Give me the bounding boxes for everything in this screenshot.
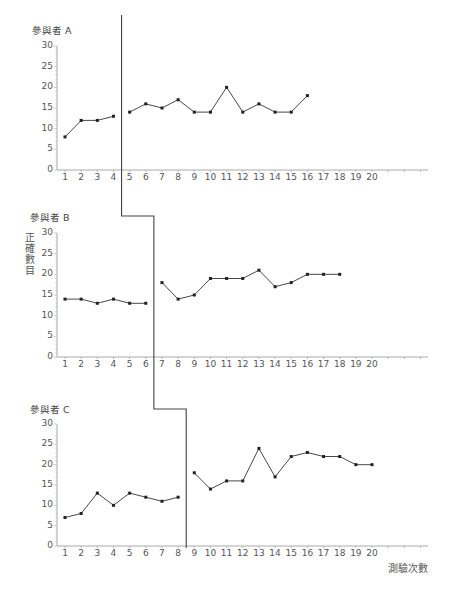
y-tick-label: 10 [33, 123, 53, 133]
y-tick-label: 25 [33, 438, 53, 448]
y-tick-label: 20 [33, 459, 53, 469]
y-tick-label: 20 [33, 268, 53, 278]
data-point [241, 111, 244, 114]
y-tick-label: 10 [33, 499, 53, 509]
data-point [112, 298, 115, 301]
data-point [160, 500, 163, 503]
panel-a-title: 參與者 A [32, 23, 72, 37]
y-tick-label: 30 [33, 40, 53, 50]
data-point [144, 302, 147, 305]
data-point [241, 479, 244, 482]
intervention-line [194, 448, 372, 489]
data-point [306, 451, 309, 454]
data-point [290, 455, 293, 458]
y-tick-label: 30 [33, 227, 53, 237]
data-point [306, 94, 309, 97]
data-point [160, 281, 163, 284]
data-point [322, 455, 325, 458]
y-tick-label: 30 [33, 418, 53, 428]
y-tick-label: 15 [33, 479, 53, 489]
y-tick-label: 20 [33, 81, 53, 91]
data-point [112, 504, 115, 507]
data-point [290, 111, 293, 114]
data-point [338, 273, 341, 276]
data-point [64, 516, 67, 519]
data-point [64, 135, 67, 138]
x-tick-label: 20 [362, 172, 382, 182]
data-point [160, 107, 163, 110]
data-point [371, 463, 374, 466]
data-point [225, 277, 228, 280]
panel-b-title: 參與者 B [30, 210, 70, 224]
x-tick-label: 20 [362, 359, 382, 369]
baseline-line [65, 116, 114, 137]
data-point [128, 111, 131, 114]
y-tick-label: 5 [33, 143, 53, 153]
x-tick-label: 20 [362, 548, 382, 558]
y-tick-label: 15 [33, 289, 53, 299]
data-point [177, 98, 180, 101]
data-point [64, 298, 67, 301]
data-point [338, 455, 341, 458]
y-tick-label: 5 [33, 330, 53, 340]
multiple-baseline-chart [0, 0, 451, 590]
data-point [306, 273, 309, 276]
data-point [225, 479, 228, 482]
data-point [193, 294, 196, 297]
x-axis-label: 測驗次數 [388, 560, 428, 575]
data-point [274, 111, 277, 114]
data-point [193, 471, 196, 474]
intervention-line [130, 87, 308, 112]
y-tick-label: 15 [33, 102, 53, 112]
data-point [112, 115, 115, 118]
data-point [177, 496, 180, 499]
phase-change-line [122, 15, 187, 548]
panel-c-title: 參與者 C [30, 402, 70, 416]
data-point [257, 102, 260, 105]
y-tick-label: 10 [33, 310, 53, 320]
data-point [322, 273, 325, 276]
data-point [241, 277, 244, 280]
data-point [128, 492, 131, 495]
data-point [96, 302, 99, 305]
y-tick-label: 5 [33, 520, 53, 530]
data-point [209, 488, 212, 491]
data-point [209, 111, 212, 114]
data-point [225, 86, 228, 89]
data-point [144, 102, 147, 105]
data-point [128, 302, 131, 305]
y-tick-label: 25 [33, 248, 53, 258]
data-point [96, 119, 99, 122]
data-point [290, 281, 293, 284]
data-point [257, 447, 260, 450]
data-point [80, 298, 83, 301]
data-point [96, 492, 99, 495]
y-tick-label: 0 [33, 351, 53, 361]
data-point [144, 496, 147, 499]
data-point [257, 269, 260, 272]
data-point [354, 463, 357, 466]
data-point [274, 475, 277, 478]
data-point [193, 111, 196, 114]
intervention-line [162, 270, 340, 299]
data-point [177, 298, 180, 301]
y-tick-label: 0 [33, 540, 53, 550]
data-point [209, 277, 212, 280]
y-tick-label: 0 [33, 164, 53, 174]
data-point [80, 512, 83, 515]
y-tick-label: 25 [33, 61, 53, 71]
baseline-line [65, 299, 146, 303]
data-point [274, 285, 277, 288]
data-point [80, 119, 83, 122]
